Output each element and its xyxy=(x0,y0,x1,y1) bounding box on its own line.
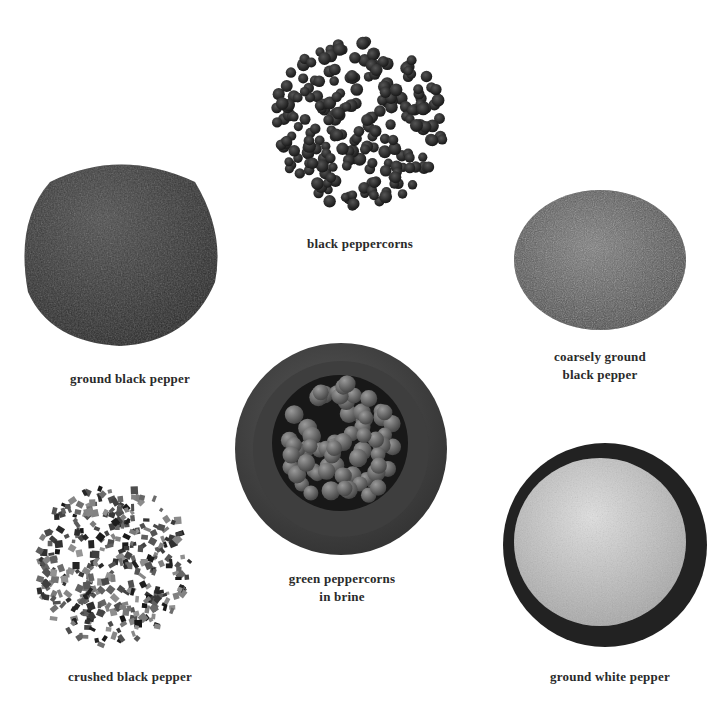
label-line: coarsely ground xyxy=(510,348,690,366)
label-line: green peppercorns xyxy=(252,570,432,588)
label-black-peppercorns: black peppercorns xyxy=(262,235,458,253)
label-ground-black-pepper: ground black pepper xyxy=(20,370,240,388)
label-coarsely-ground: coarsely ground black pepper xyxy=(510,348,690,384)
ground-black-pepper-image xyxy=(20,152,222,348)
label-line: crushed black pepper xyxy=(20,668,240,686)
label-line: ground black pepper xyxy=(20,370,240,388)
coarsely-ground-pepper-image xyxy=(510,185,690,335)
label-line: black peppercorns xyxy=(262,235,458,253)
label-crushed-black-pepper: crushed black pepper xyxy=(20,668,240,686)
green-peppercorns-image xyxy=(232,340,450,558)
label-green-peppercorns: green peppercorns in brine xyxy=(252,570,432,606)
label-line: black pepper xyxy=(510,366,690,384)
label-line: ground white pepper xyxy=(510,668,710,686)
ground-white-pepper-image xyxy=(500,440,710,650)
crushed-black-pepper-image xyxy=(30,475,195,650)
label-line: in brine xyxy=(252,588,432,606)
label-ground-white-pepper: ground white pepper xyxy=(510,668,710,686)
black-peppercorns-image xyxy=(262,28,454,220)
